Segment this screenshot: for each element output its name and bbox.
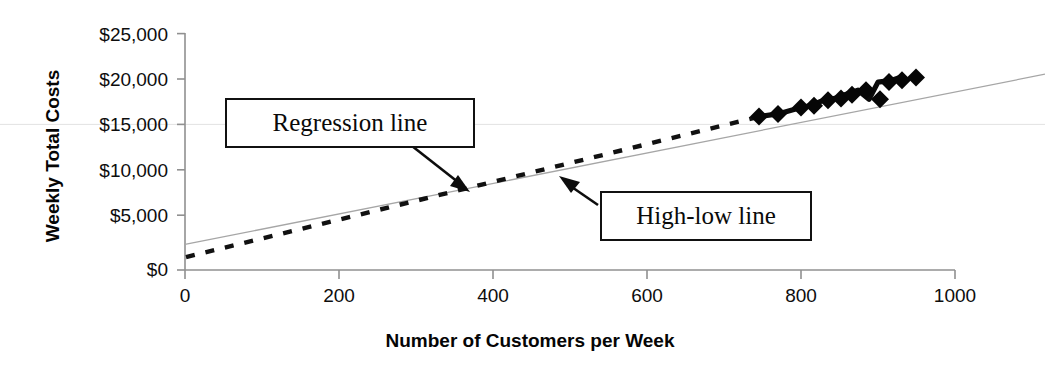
x-tick-label: 800 xyxy=(761,285,841,307)
y-axis-ticks xyxy=(177,34,185,270)
data-point-marker xyxy=(893,71,911,89)
highlow-callout-arrow xyxy=(559,176,598,205)
x-tick-label: 0 xyxy=(145,285,225,307)
chart-plot-area xyxy=(0,0,1045,374)
chart-container: $25,000 $20,000 $15,000 $10,000 $5,000 $… xyxy=(0,0,1045,374)
x-axis-title: Number of Customers per Week xyxy=(240,330,820,352)
x-tick-label: 600 xyxy=(607,285,687,307)
x-axis-ticks xyxy=(185,270,955,279)
data-point-marker xyxy=(769,105,787,123)
data-point-marker xyxy=(750,108,768,126)
data-point-marker xyxy=(907,69,925,87)
regression-callout-box: Regression line xyxy=(225,98,475,148)
x-tick-label: 200 xyxy=(299,285,379,307)
y-axis-title: Weekly Total Costs xyxy=(42,41,64,271)
regression-callout-arrow xyxy=(412,146,470,192)
data-point-markers xyxy=(750,69,925,126)
highlow-callout-box: High-low line xyxy=(600,191,812,241)
x-tick-label: 400 xyxy=(453,285,533,307)
x-tick-label: 1000 xyxy=(915,285,995,307)
